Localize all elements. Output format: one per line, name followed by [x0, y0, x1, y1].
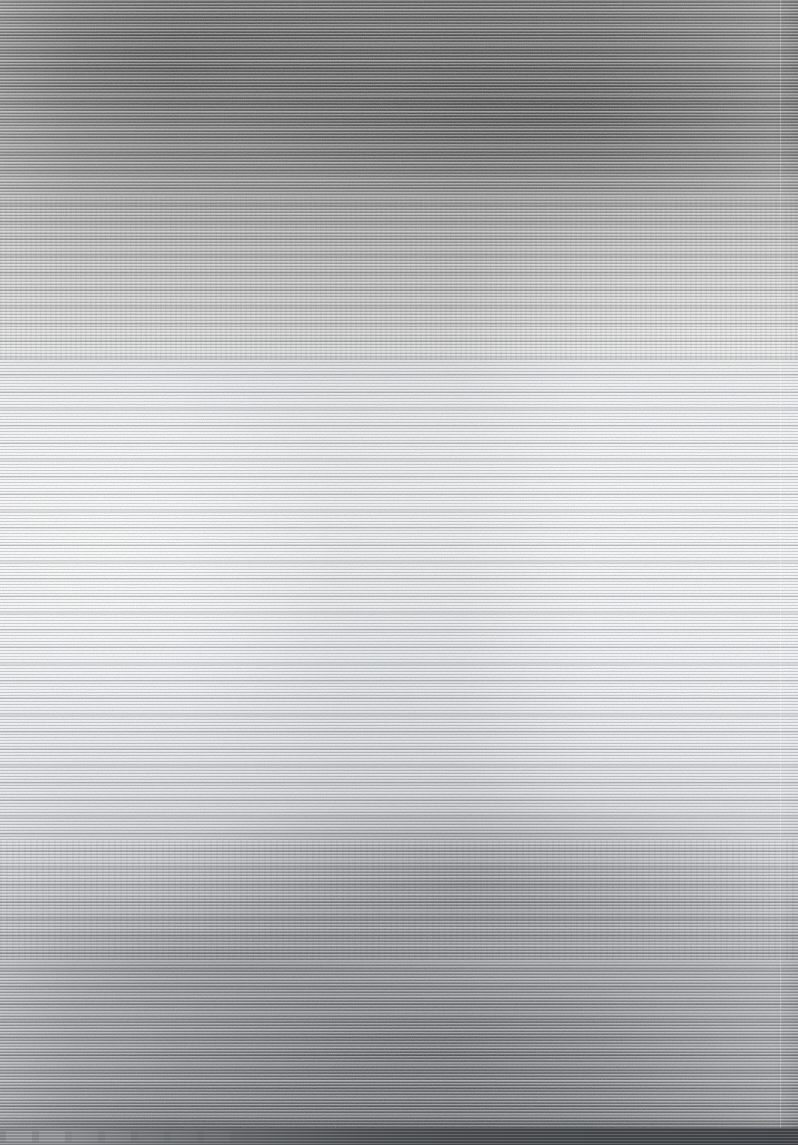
taskbar-block[interactable]: [39, 1131, 65, 1142]
taskbar-block[interactable]: [6, 1131, 32, 1142]
taskbar-block[interactable]: [105, 1131, 131, 1142]
taskbar-block[interactable]: [138, 1131, 164, 1142]
taskbar-block[interactable]: [171, 1131, 197, 1142]
bottom-bar[interactable]: [0, 1128, 798, 1145]
corrupted-screenshot-canvas: Severely corrupted screenshot. The entir…: [0, 0, 798, 1145]
bottom-bar-block-group: [0, 1128, 798, 1145]
taskbar-block[interactable]: [72, 1131, 98, 1142]
dark-blotch-overlay: [0, 0, 798, 1145]
taskbar-block[interactable]: [204, 1131, 230, 1142]
